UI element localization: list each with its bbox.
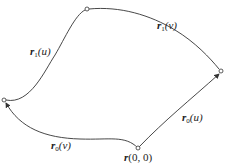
- label-origin: r(0, 0): [124, 152, 152, 163]
- label-r1-v: r1(v): [157, 20, 177, 33]
- corner-point-left: [2, 98, 6, 102]
- label-r0-u: r0(u): [182, 112, 203, 125]
- corner-point-right: [219, 69, 223, 73]
- diagram-canvas: [0, 0, 231, 167]
- corner-point-top: [85, 7, 89, 11]
- curve-r1-v: [89, 8, 219, 69]
- corner-point-origin: [136, 146, 140, 150]
- curve-r0-u: [139, 74, 219, 147]
- label-r1-u: r1(u): [30, 46, 51, 59]
- curve-r0-v: [6, 103, 138, 148]
- label-r0-v: r0(v): [51, 140, 71, 153]
